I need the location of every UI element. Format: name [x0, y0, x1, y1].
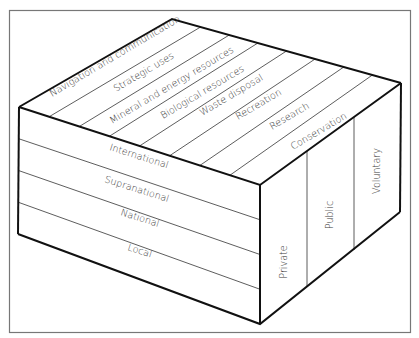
side-column-label: Private — [278, 245, 289, 279]
front-band-label: Local — [126, 241, 153, 259]
side-column-label: Voluntary — [371, 148, 382, 194]
front-band-label: National — [119, 206, 160, 229]
top-face: Navigation and communication Strategic u… — [47, 13, 372, 175]
front-band-label: Supranational — [103, 173, 170, 204]
front-face: International Supranational National Loc… — [18, 139, 260, 290]
diagram-canvas: Navigation and communication Strategic u… — [0, 0, 419, 338]
side-column-label: Public — [324, 201, 335, 229]
